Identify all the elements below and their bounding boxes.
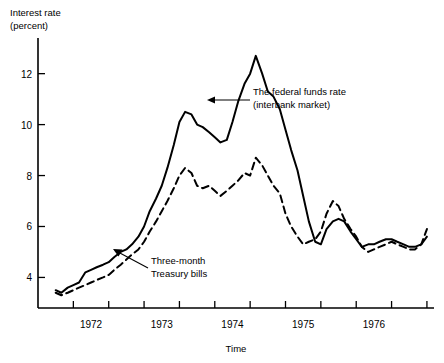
treasury-bills-annotation: Three-month Treasury bills: [113, 249, 207, 279]
y-tick-label: 12: [21, 69, 33, 80]
interest-rate-chart: Interest rate (percent) 4681012 19721973…: [0, 0, 444, 363]
y-tick-label: 6: [26, 221, 32, 232]
y-tick-label: 10: [21, 120, 33, 131]
federal-funds-annotation: The federal funds rate (interbank market…: [207, 86, 346, 110]
y-tick-label: 8: [26, 171, 32, 182]
x-tick-label: 1976: [363, 319, 386, 330]
federal-funds-annotation-line2: (interbank market): [253, 99, 330, 110]
data-series-layer: [56, 56, 427, 295]
chart-canvas: Interest rate (percent) 4681012 19721973…: [0, 0, 444, 363]
treasury-bills-annotation-line2: Treasury bills: [151, 268, 207, 279]
federal-funds-annotation-arrowhead: [207, 97, 215, 104]
x-tick-label: 1974: [221, 319, 244, 330]
y-axis-title-line2: (percent): [10, 20, 48, 31]
x-tick-label: 1975: [292, 319, 315, 330]
x-tick-label: 1972: [80, 319, 103, 330]
treasury-bills-annotation-line1: Three-month: [151, 255, 205, 266]
y-axis-title-line1: Interest rate: [10, 7, 61, 18]
federal-funds-annotation-line1: The federal funds rate: [253, 86, 346, 97]
series-federal-funds-rate: [56, 56, 427, 293]
x-axis-title: Time: [226, 343, 247, 354]
y-axis-ticks: 4681012: [21, 69, 45, 284]
y-tick-label: 4: [26, 272, 32, 283]
treasury-bills-annotation-leader: [118, 252, 148, 268]
x-axis-ticks: 19721973197419751976: [73, 301, 427, 330]
series-three-month-treasury-bills: [56, 158, 427, 296]
x-tick-label: 1973: [151, 319, 174, 330]
